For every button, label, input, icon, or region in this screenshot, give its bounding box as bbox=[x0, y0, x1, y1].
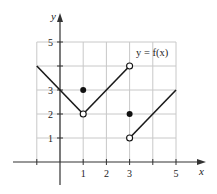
filled-point bbox=[127, 111, 133, 117]
function-graph: 12351235 bbox=[0, 0, 217, 194]
y-axis-label: y bbox=[51, 10, 56, 22]
open-point bbox=[80, 111, 86, 117]
y-tick-label: 3 bbox=[48, 85, 53, 96]
x-tick-label: 2 bbox=[104, 168, 109, 179]
x-axis-label: x bbox=[199, 165, 204, 177]
open-point bbox=[127, 63, 133, 69]
x-tick-label: 3 bbox=[127, 168, 132, 179]
filled-point bbox=[80, 87, 86, 93]
open-point bbox=[127, 135, 133, 141]
y-tick-label: 1 bbox=[48, 133, 53, 144]
y-tick-label: 2 bbox=[48, 109, 53, 120]
function-annotation: y = f(x) bbox=[136, 47, 168, 58]
y-tick-label: 5 bbox=[48, 37, 53, 48]
x-tick-label: 1 bbox=[81, 168, 86, 179]
y-axis-arrow-icon bbox=[57, 13, 63, 22]
x-tick-label: 5 bbox=[174, 168, 179, 179]
